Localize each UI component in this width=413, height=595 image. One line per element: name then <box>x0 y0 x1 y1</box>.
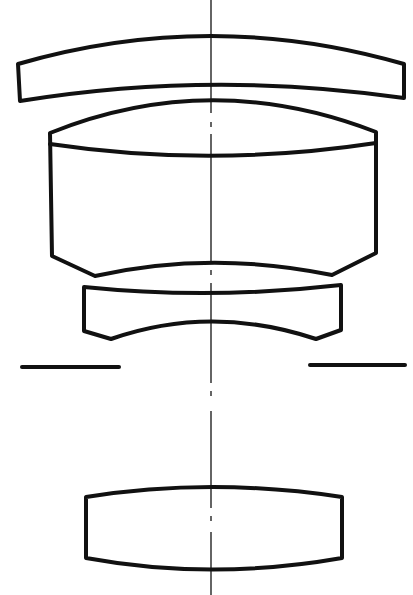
lens-4-biconvex <box>86 487 342 570</box>
lens-diagram <box>0 0 413 595</box>
lens-3-negative <box>84 285 341 339</box>
lens-2-cemented-doublet <box>50 100 376 276</box>
lens-2-cement-surface <box>50 143 376 156</box>
aperture-stop <box>22 365 405 367</box>
